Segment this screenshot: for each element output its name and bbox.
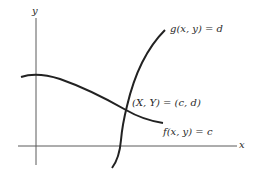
curve-g-label: g(x, y) = d (170, 24, 223, 34)
intersection-label: (X, Y) = (c, d) (132, 98, 201, 108)
x-axis-label: x (239, 140, 245, 150)
curve-f-label: f(x, y) = c (163, 127, 213, 137)
y-axis-label: y (32, 6, 38, 16)
level-curves-diagram: y x g(x, y) = d (X, Y) = (c, d) f(x, y) … (0, 0, 255, 173)
